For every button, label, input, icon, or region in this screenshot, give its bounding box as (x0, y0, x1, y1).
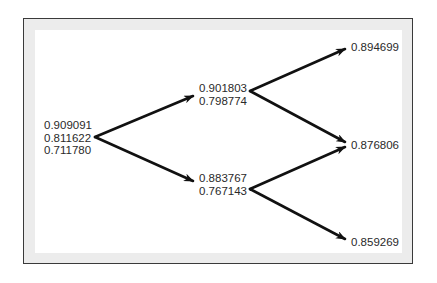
node-down-value-1: 0.883767 (199, 172, 247, 185)
arrow-up-to-middle (250, 91, 345, 142)
node-downdown: 0.859269 (351, 236, 399, 249)
node-upup: 0.894699 (351, 41, 399, 54)
node-root: 0.909091 0.811622 0.711780 (44, 119, 92, 157)
node-down: 0.883767 0.767143 (199, 172, 247, 197)
arrow-down-to-downdown (250, 189, 345, 239)
node-middle-value: 0.876806 (351, 139, 399, 152)
node-up: 0.901803 0.798774 (199, 82, 247, 107)
node-upup-value: 0.894699 (351, 41, 399, 54)
node-downdown-value: 0.859269 (351, 236, 399, 249)
arrow-root-to-down (95, 137, 193, 181)
node-root-value-3: 0.711780 (44, 144, 92, 157)
node-up-value-2: 0.798774 (199, 95, 247, 108)
node-up-value-1: 0.901803 (199, 82, 247, 95)
node-root-value-1: 0.909091 (44, 119, 92, 132)
node-down-value-2: 0.767143 (199, 185, 247, 198)
arrow-down-to-middle (250, 147, 345, 189)
node-root-value-2: 0.811622 (44, 132, 92, 145)
node-middle: 0.876806 (351, 139, 399, 152)
arrow-root-to-up (95, 96, 193, 137)
arrow-up-to-upup (250, 49, 345, 91)
